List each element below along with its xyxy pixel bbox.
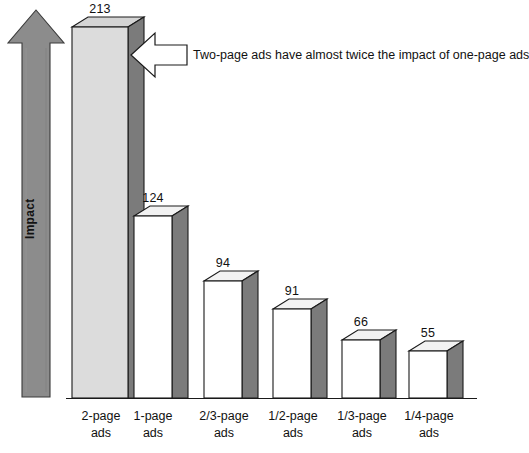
bar-side-face: [172, 206, 188, 398]
bar-1-2-page-ads: [273, 299, 327, 398]
annotation-callout-text: Two-page ads have almost twice the impac…: [193, 49, 529, 62]
bar-value-label-1-4-page-ads: 55: [409, 327, 447, 340]
x-axis-category-1-page-ads: 1-page ads: [120, 408, 186, 441]
bar-side-face: [242, 271, 258, 398]
bar-side-face: [311, 299, 327, 398]
bar-front-face: [72, 27, 128, 398]
bar-front-face: [273, 309, 311, 398]
bar-value-label-2-3-page-ads: 94: [204, 257, 242, 270]
x-axis-category-1-3-page-ads: 1/3-page ads: [324, 408, 400, 441]
bar-1-page-ads: [134, 206, 188, 398]
x-axis-category-2-3-page-ads: 2/3-page ads: [186, 408, 262, 441]
bar-2-3-page-ads: [204, 271, 258, 398]
bar-side-face: [447, 341, 463, 398]
bar-value-label-1-3-page-ads: 66: [342, 316, 380, 329]
bar-1-3-page-ads: [342, 330, 396, 398]
bar-front-face: [409, 351, 447, 398]
bar-front-face: [342, 340, 380, 398]
bar-side-face: [380, 330, 396, 398]
y-axis-label-impact: Impact: [24, 193, 36, 239]
x-axis-category-1-4-page-ads: 1/4-page ads: [391, 408, 467, 441]
bar-1-4-page-ads: [409, 341, 463, 398]
bar-value-label-1-page-ads: 124: [134, 192, 172, 205]
x-axis-category-1-2-page-ads: 1/2-page ads: [255, 408, 331, 441]
bar-value-label-1-2-page-ads: 91: [273, 285, 311, 298]
bar-2-page-ads: [72, 17, 144, 398]
bar-front-face: [134, 216, 172, 398]
bar-front-face: [204, 281, 242, 398]
bar-value-label-2-page-ads: 213: [72, 3, 128, 16]
